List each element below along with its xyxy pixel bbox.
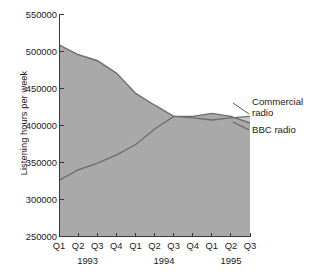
x-tick-year: 1994 <box>154 256 175 266</box>
legend-commercial-line2: radio <box>252 107 273 118</box>
plot-canvas <box>0 0 313 277</box>
x-tick-quarter: Q1 <box>206 241 219 251</box>
x-tick-quarter: Q4 <box>110 241 123 251</box>
legend-commercial-line1: Commercial <box>252 96 303 107</box>
x-tick-quarter: Q3 <box>91 241 104 251</box>
legend-label-commercial-radio: Commercial radio <box>252 96 303 118</box>
x-tick-quarter: Q2 <box>225 241 238 251</box>
leader-line-commercial <box>233 103 249 114</box>
x-tick-quarter: Q1 <box>53 241 66 251</box>
radio-listening-area-chart: Listening hours per week 550000 500000 4… <box>0 0 313 277</box>
x-tick-year: 1993 <box>77 256 98 266</box>
x-tick-quarter: Q3 <box>244 241 257 251</box>
x-tick-quarter: Q1 <box>129 241 142 251</box>
x-tick-year: 1995 <box>221 256 242 266</box>
x-tick-quarter: Q2 <box>72 241 85 251</box>
area-commercial-radio <box>60 45 251 236</box>
x-tick-quarter: Q4 <box>186 241 199 251</box>
x-tick-quarter: Q2 <box>148 241 161 251</box>
legend-label-bbc-radio: BBC radio <box>252 124 296 135</box>
x-tick-quarter: Q3 <box>167 241 180 251</box>
